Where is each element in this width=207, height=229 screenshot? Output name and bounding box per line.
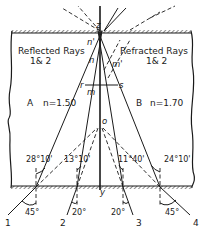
angle-ray1-incidence: 45°	[25, 208, 39, 217]
ray-number-4: 4	[193, 218, 199, 228]
left-region-subtitle: 1& 2	[30, 56, 51, 66]
right-region-title: Refracted Rays	[120, 46, 188, 56]
medium-a-index: n=1.50	[43, 98, 77, 108]
refraction-diagram: Reflected Rays 1& 2 Refracted Rays 1& 2 …	[0, 0, 207, 229]
angle-arcs	[22, 165, 176, 205]
point-n: n	[89, 55, 94, 65]
medium-a-label: A	[27, 98, 34, 108]
dashed-construction-lines	[36, 40, 160, 205]
angle-ray3-incidence: 20°	[111, 208, 125, 217]
angle-ray4-incidence: 45°	[165, 208, 179, 217]
angle-ray3-interior: 11°40'	[118, 155, 145, 164]
left-broken-edge	[8, 31, 12, 188]
point-n-prime: n'	[87, 37, 95, 47]
point-y: y	[99, 187, 106, 197]
left-region-title: Reflected Rays	[18, 46, 85, 56]
medium-b-index: n=1.70	[150, 98, 184, 108]
emerging-rays	[62, 6, 175, 31]
right-broken-edge	[191, 31, 194, 188]
ray-number-2: 2	[60, 218, 66, 228]
ray-number-3: 3	[136, 218, 142, 228]
point-s: s	[119, 80, 124, 90]
medium-b-label: B	[136, 98, 142, 108]
angle-ray2-incidence: 20°	[72, 208, 86, 217]
angle-ray4-interior: 24°10'	[164, 155, 191, 164]
point-m-prime: m'	[112, 59, 123, 69]
right-region-subtitle: 1& 2	[146, 56, 167, 66]
point-m: m	[87, 87, 95, 97]
angle-ray1-interior: 28°10'	[26, 155, 53, 164]
point-o: o	[102, 116, 107, 126]
point-z: z	[95, 20, 101, 30]
ray-number-1: 1	[5, 218, 11, 228]
angle-ray2-interior: 13°10'	[64, 155, 91, 164]
point-r: r	[80, 80, 84, 90]
